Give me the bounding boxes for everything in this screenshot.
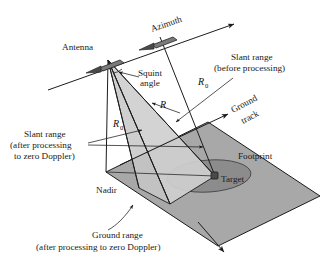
target-label: Target — [221, 174, 245, 184]
slant-range-before-label-line2: (before processing) — [214, 63, 285, 73]
ground-range-label-line1: Ground range — [92, 230, 143, 240]
nadir-group — [106, 60, 108, 172]
antenna-secondary-arrow-icon — [139, 43, 154, 50]
azimuth-label: Azimuth — [149, 14, 183, 34]
squint-angle-label-line2: angle — [140, 78, 160, 88]
antenna-label: Antenna — [62, 42, 93, 52]
r0-lower-letter: R — [112, 118, 119, 129]
antenna-secondary-group — [139, 37, 177, 50]
nadir-label: Nadir — [96, 185, 117, 195]
antenna-secondary-body — [152, 37, 177, 48]
slant-range-after-label-line3: to zero Doppler) — [14, 151, 75, 161]
slant-range-before-label-line1: Slant range — [231, 52, 273, 62]
footprint-label: Footprint — [238, 151, 273, 161]
ground-range-curved-leader — [108, 205, 133, 230]
ground-range-label-line2: (after processing to zero Doppler) — [36, 242, 161, 252]
sar-geometry-diagram: Azimuth Antenna Squint angle Slant range… — [0, 0, 326, 264]
squint-angle-label-line1: Squint — [138, 68, 162, 78]
slant-range-after-label-line2: (after processing — [10, 140, 72, 150]
target-marker — [211, 172, 218, 179]
slant-range-after-label-line1: Slant range — [24, 129, 66, 139]
r0-upper-letter: R — [197, 76, 204, 87]
r-slant-symbol: R — [159, 99, 166, 110]
antenna-primary-arrow-icon — [86, 66, 101, 73]
r0-upper-symbol: R 0 — [197, 76, 209, 89]
ground-track-label-line2: track — [239, 108, 260, 126]
diagram-canvas: Azimuth Antenna Squint angle Slant range… — [0, 0, 326, 264]
r0-upper-subscript: 0 — [205, 82, 209, 89]
nadir-line — [106, 60, 108, 172]
